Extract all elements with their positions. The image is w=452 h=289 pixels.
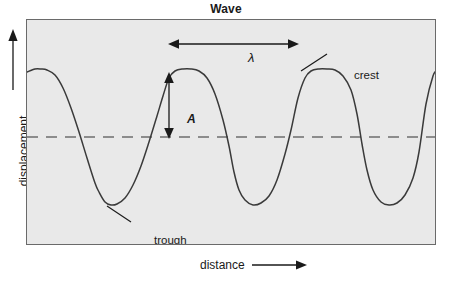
- x-axis-group: distance: [200, 258, 308, 272]
- annotation-overlay-svg: [27, 20, 436, 245]
- amplitude-label: A: [187, 112, 196, 126]
- crest-leader-line-icon: [301, 54, 327, 71]
- double-headed-arrow-vertical-icon: [164, 72, 174, 139]
- arrow-right-icon: [252, 259, 308, 271]
- figure-title: Wave: [0, 2, 452, 16]
- trough-label: trough: [154, 234, 187, 245]
- trough-leader-line-icon: [107, 206, 131, 222]
- wave-figure: Wave displacement: [0, 0, 452, 289]
- plot-area: λ A crest trough: [26, 19, 436, 245]
- x-axis-label: distance: [200, 258, 245, 272]
- double-headed-arrow-horizontal-icon: [168, 39, 299, 49]
- wavelength-label: λ: [248, 50, 254, 65]
- crest-label: crest: [354, 69, 379, 81]
